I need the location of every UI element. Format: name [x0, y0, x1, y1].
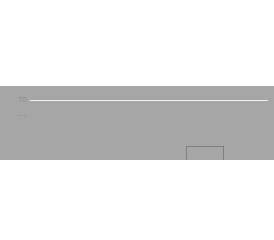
bar-series [0, 116, 274, 160]
bar-2015[interactable] [186, 146, 224, 160]
gridline-70 [30, 100, 268, 101]
y-tick-label-70: 70 [0, 96, 27, 104]
bar-chart: 70 60 50 40 30 20 10 0 1992 2015 [0, 86, 274, 140]
